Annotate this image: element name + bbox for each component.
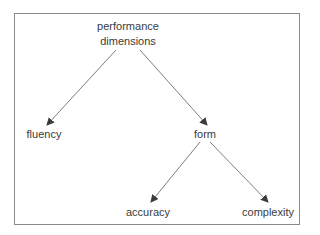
node-accuracy: accuracy [122, 205, 174, 220]
node-form: form [188, 127, 222, 142]
edge-form-complexity [210, 142, 268, 202]
edge-root-form [140, 50, 207, 125]
edge-root-fluency [47, 50, 116, 125]
node-complexity: complexity [238, 205, 298, 220]
node-fluency: fluency [24, 127, 64, 142]
node-root-line2: dimensions [88, 34, 168, 49]
node-performance-dimensions: performance dimensions [88, 19, 168, 49]
node-root-line1: performance [88, 19, 168, 34]
edge-form-accuracy [151, 142, 200, 202]
